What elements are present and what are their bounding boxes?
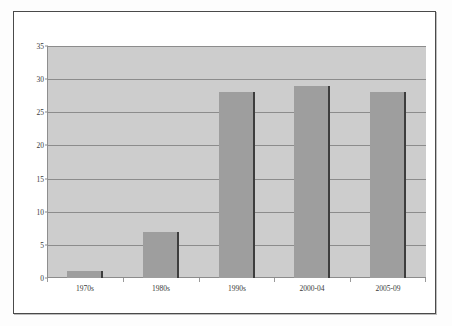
x-tick-mark-3 [274, 278, 275, 282]
x-tick-mark-0 [47, 278, 48, 282]
y-axis-label-20: 20 [37, 141, 45, 150]
y-axis-label-15: 15 [37, 175, 45, 184]
x-axis-label-2000-04: 2000-04 [300, 284, 325, 293]
x-tick-mark-4 [350, 278, 351, 282]
y-axis-label-0: 0 [40, 274, 44, 283]
bar-2000-04 [294, 86, 330, 278]
x-axis-label-2005-09: 2005-09 [376, 284, 401, 293]
x-axis-label-1980s: 1980s [152, 284, 170, 293]
y-axis-label-30: 30 [37, 75, 45, 84]
x-axis-label-1970s: 1970s [76, 284, 94, 293]
y-axis-label-10: 10 [37, 208, 45, 217]
plot-wrapper: 05101520253035 1970s1980s1990s2000-04200… [34, 46, 426, 296]
chart-frame: 05101520253035 1970s1980s1990s2000-04200… [13, 11, 436, 314]
x-tick-mark-end [425, 278, 426, 282]
bar-1980s [143, 232, 179, 278]
chart-screenshot: 05101520253035 1970s1980s1990s2000-04200… [0, 0, 452, 326]
x-axis-label-1990s: 1990s [228, 284, 246, 293]
x-tick-mark-2 [199, 278, 200, 282]
bar-1990s [219, 92, 255, 278]
bar-2005-09 [370, 92, 406, 278]
category-axis: 1970s1980s1990s2000-042005-09 [47, 278, 426, 296]
y-axis-label-35: 35 [37, 42, 45, 51]
y-axis-label-25: 25 [37, 108, 45, 117]
x-tick-mark-1 [123, 278, 124, 282]
bar-1970s [67, 271, 103, 278]
y-axis-label-5: 5 [40, 241, 44, 250]
bars-layer [47, 46, 426, 278]
